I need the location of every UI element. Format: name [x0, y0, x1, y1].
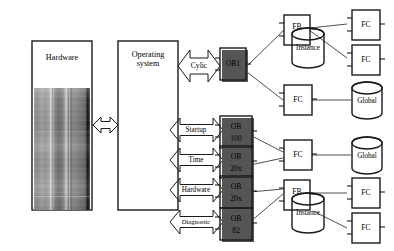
ob-label-ob20x-hardware-line1: OB — [231, 182, 242, 191]
fc-label-top-2: FC — [361, 55, 370, 64]
fc-label-top-1: FC — [361, 20, 370, 29]
ob-label-ob100-line1: OB — [231, 122, 242, 131]
ob-block-ob20x-hardware[interactable]: OB 20x — [215, 176, 257, 210]
os-label-line1: Operating — [132, 50, 165, 59]
fc-block-global[interactable]: FC — [279, 140, 317, 170]
event-label-cyclic: Cylic — [191, 61, 208, 70]
hardware-panel: Hardware — [32, 41, 92, 210]
instance-db-top[interactable]: Instance — [292, 28, 324, 68]
fc-block-mid[interactable]: FC — [279, 85, 317, 115]
ob-block-ob82[interactable]: OB 82 — [215, 208, 257, 242]
fc-label-global: FC — [293, 150, 302, 159]
ob-block-ob100[interactable]: OB 100 — [215, 116, 257, 150]
global-db-label-bottom: Global — [357, 152, 377, 160]
hardware-os-bidirectional-arrow — [93, 117, 118, 133]
fc-label-mid: FC — [293, 95, 302, 104]
event-arrow-diagnostic: Diagnostic — [170, 210, 223, 234]
connector-lines — [247, 24, 351, 228]
fc-block-top-1[interactable]: FC — [347, 10, 385, 40]
ob-label-ob20x-time-line2: 20x — [230, 164, 242, 173]
ob-label-ob1: OB1 — [226, 59, 241, 68]
fc-block-top-2[interactable]: FC — [347, 45, 385, 75]
fc-label-bottom-1: FC — [361, 188, 370, 197]
fc-block-bottom-2[interactable]: FC — [347, 213, 385, 243]
event-arrow-cyclic: Cylic — [178, 50, 220, 82]
fc-block-bottom-1[interactable]: FC — [347, 178, 385, 208]
instance-db-label-top: Instance — [296, 44, 320, 52]
os-label-line2: system — [137, 59, 160, 68]
event-label-diagnostic: Diagnostic — [182, 218, 211, 225]
diagram-canvas: Hardware Operating system — [0, 0, 394, 251]
ob-block-ob20x-time[interactable]: OB 20x — [215, 146, 257, 180]
instance-db-label-bottom: Instance — [296, 209, 320, 217]
hardware-label: Hardware — [46, 53, 79, 62]
hardware-rack-photo — [34, 88, 90, 210]
ob-label-ob82-line1: OB — [231, 214, 242, 223]
ob-label-ob20x-hardware-line2: 20x — [230, 194, 242, 203]
plc-structure-diagram: Hardware Operating system — [0, 0, 394, 251]
ob-label-ob100-line2: 100 — [230, 134, 242, 143]
operating-system-panel: Operating system — [118, 41, 178, 210]
ob-label-ob82-line2: 82 — [232, 226, 240, 235]
fc-label-bottom-2: FC — [361, 223, 370, 232]
global-db-bottom[interactable]: Global — [352, 137, 382, 174]
ob-label-ob20x-time-line1: OB — [231, 152, 242, 161]
ob-block-ob1[interactable]: OB1 — [215, 48, 251, 82]
instance-db-bottom[interactable]: Instance — [292, 193, 324, 233]
event-label-time: Time — [189, 156, 204, 164]
event-label-hardware: Hardware — [182, 186, 210, 194]
global-db-label-top: Global — [357, 97, 377, 105]
event-label-startup: Startup — [186, 126, 207, 134]
global-db-top[interactable]: Global — [352, 82, 382, 119]
